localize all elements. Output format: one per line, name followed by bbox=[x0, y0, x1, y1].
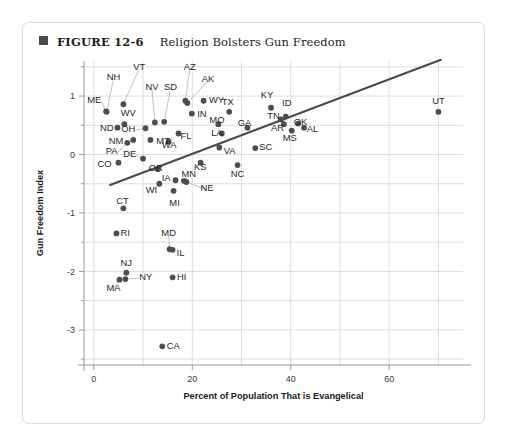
data-point bbox=[115, 125, 121, 131]
data-point-label: TN bbox=[267, 110, 280, 121]
data-point-label: KY bbox=[261, 89, 274, 100]
data-point bbox=[252, 145, 258, 151]
data-point-label-layer: MENHVTWVNDOHNMMTPADECONVSDAZAKWYINTXMOGA… bbox=[87, 61, 445, 350]
y-tick-label: -2 bbox=[67, 267, 75, 277]
data-point-label: ID bbox=[282, 97, 292, 108]
y-tick-label: 1 bbox=[70, 91, 75, 101]
data-point bbox=[173, 177, 179, 183]
data-point-layer bbox=[103, 98, 441, 349]
data-point bbox=[130, 137, 136, 143]
data-point-label: MS bbox=[283, 132, 297, 143]
data-point bbox=[201, 98, 207, 104]
x-tick-label: 60 bbox=[384, 374, 394, 384]
data-point bbox=[104, 109, 110, 115]
data-point bbox=[161, 119, 167, 125]
data-point-label: ME bbox=[87, 94, 101, 105]
x-tick-label: 20 bbox=[187, 374, 197, 384]
data-point-label: IL bbox=[177, 247, 185, 258]
data-point-label: NC bbox=[231, 168, 245, 179]
data-point bbox=[120, 205, 126, 211]
data-point-label: CT bbox=[116, 195, 129, 206]
label-leader-line bbox=[164, 88, 170, 122]
data-point-label: AK bbox=[202, 73, 215, 84]
data-point bbox=[159, 343, 165, 349]
data-point bbox=[183, 179, 189, 185]
data-point bbox=[226, 109, 232, 115]
y-tick-label: -3 bbox=[67, 325, 75, 335]
data-point bbox=[123, 270, 129, 276]
data-point-label: ND bbox=[100, 122, 114, 133]
x-tick-label: 0 bbox=[91, 374, 96, 384]
data-point-label: MA bbox=[107, 282, 122, 293]
y-tick-label: -1 bbox=[67, 208, 75, 218]
data-point-label: HI bbox=[177, 271, 186, 282]
data-point-label: NV bbox=[145, 81, 159, 92]
data-point-label: WA bbox=[162, 139, 178, 150]
data-point-label: NH bbox=[107, 71, 121, 82]
data-point-label: UT bbox=[432, 95, 445, 106]
scatter-plot: 020406010-1-2-3 MENHVTWVNDOHNMMTPADECONV… bbox=[23, 23, 486, 425]
data-point bbox=[124, 140, 130, 146]
data-point-label: CO bbox=[98, 158, 112, 169]
data-point-label: IN bbox=[197, 108, 206, 119]
data-point-label: MD bbox=[161, 227, 176, 238]
data-point-label: PA bbox=[106, 145, 119, 156]
data-point bbox=[283, 114, 289, 120]
data-point-label: NY bbox=[139, 271, 153, 282]
data-point bbox=[140, 156, 146, 162]
data-point-label: WV bbox=[121, 107, 137, 118]
label-leader-line bbox=[123, 69, 139, 104]
x-tick-label: 40 bbox=[286, 374, 296, 384]
data-point-label: LA bbox=[211, 127, 223, 138]
data-point-label: GA bbox=[238, 117, 252, 128]
data-point-label: AZ bbox=[184, 61, 196, 72]
data-point-label: FL bbox=[180, 130, 191, 141]
data-point bbox=[152, 119, 158, 125]
data-point bbox=[170, 274, 176, 280]
data-point bbox=[122, 276, 128, 282]
data-point-label: SD bbox=[164, 81, 177, 92]
figure-card: FIGURE 12-6 Religion Bolsters Gun Freedo… bbox=[22, 22, 485, 424]
data-point-label: WI bbox=[146, 184, 157, 195]
data-point-label: SC bbox=[259, 141, 272, 152]
data-point bbox=[116, 160, 122, 166]
y-axis-title: Gun Freedom Index bbox=[35, 169, 45, 256]
data-point bbox=[435, 109, 441, 115]
data-point-label: NJ bbox=[121, 257, 132, 268]
data-point bbox=[216, 145, 222, 151]
label-leader-line bbox=[152, 88, 155, 122]
data-point-label: NE bbox=[201, 182, 214, 193]
y-tick-label: 0 bbox=[70, 150, 75, 160]
data-point bbox=[148, 137, 154, 143]
data-point-label: TX bbox=[222, 96, 235, 107]
data-point-label: AL bbox=[307, 123, 318, 134]
data-point-label: VT bbox=[133, 61, 145, 72]
data-point-label: MN bbox=[182, 168, 197, 179]
data-point bbox=[171, 188, 177, 194]
x-axis-title: Percent of Population That is Evangelica… bbox=[183, 391, 363, 401]
data-point-label: CA bbox=[167, 340, 181, 351]
data-point-label: OR bbox=[149, 162, 163, 173]
data-point-label: VA bbox=[224, 145, 237, 156]
data-point-label: DE bbox=[123, 148, 136, 159]
data-point bbox=[114, 231, 120, 237]
data-point bbox=[143, 125, 149, 131]
data-point-label: OH bbox=[121, 123, 135, 134]
data-point-label: MI bbox=[169, 197, 179, 208]
data-point bbox=[184, 100, 190, 106]
data-point-label: RI bbox=[120, 227, 129, 238]
label-leader-line bbox=[107, 79, 114, 112]
data-point bbox=[170, 247, 176, 253]
data-point-label: MO bbox=[209, 114, 224, 125]
data-point-label: IA bbox=[162, 172, 172, 183]
data-point bbox=[189, 111, 195, 117]
